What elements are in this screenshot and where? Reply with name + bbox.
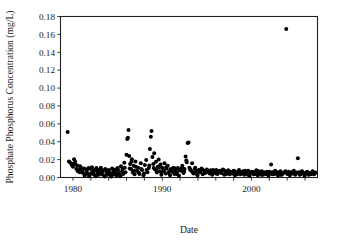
y-tick-label: 0.14 [39,48,55,58]
data-point [211,168,215,172]
data-point [191,170,195,174]
data-point [233,169,237,173]
data-point [166,171,170,175]
data-point [296,156,300,160]
data-point [164,165,168,169]
data-point [66,130,70,134]
data-point [182,170,186,174]
data-point [94,174,98,178]
data-point [123,166,127,170]
data-point [144,158,148,162]
data-point [142,171,146,175]
data-point [298,173,302,177]
data-point [129,160,133,164]
data-point [243,169,247,173]
data-point [269,163,273,167]
y-tick-label: 0.08 [39,101,55,111]
data-point [200,167,204,171]
data-point [107,170,111,174]
y-tick-label: 0.00 [39,173,55,183]
data-point [127,154,131,158]
scatter-chart-figure: 0.000.020.040.060.080.100.120.140.160.18… [0,0,341,247]
y-axis-tick-labels: 0.000.020.040.060.080.100.120.140.160.18 [39,12,55,183]
data-point [145,168,149,172]
data-point [154,168,158,172]
data-point [157,165,161,169]
data-point [150,155,154,159]
y-tick-label: 0.18 [39,12,55,22]
data-point [80,170,84,174]
data-point [83,174,87,178]
data-point [116,168,120,172]
data-point [123,170,127,174]
data-point [100,170,104,174]
data-point [184,159,188,163]
x-tick-label: 2000 [242,184,261,194]
data-point [78,164,82,168]
data-point [149,135,153,139]
y-tick-label: 0.12 [39,65,55,75]
y-tick-label: 0.04 [39,137,55,147]
data-point [137,171,141,175]
chart-canvas: 0.000.020.040.060.080.100.120.140.160.18… [0,0,341,247]
data-point [284,27,288,31]
data-point [74,163,78,167]
data-point [92,169,96,173]
data-point [184,154,188,158]
data-point [143,163,147,167]
data-point [139,161,143,165]
y-tick-label: 0.02 [39,155,55,165]
data-point [148,147,152,151]
data-point [128,167,132,171]
data-point [152,151,156,155]
x-axis-tick-labels: 198019902000 [64,184,261,194]
data-point [180,166,184,170]
y-tick-label: 0.16 [39,30,55,40]
data-point [109,175,113,179]
plot-frame [61,17,318,178]
data-point [85,169,89,173]
data-point [175,172,179,176]
data-point [76,169,80,173]
data-point [139,167,143,171]
y-tick-label: 0.06 [39,119,55,129]
data-point [162,161,166,165]
x-tick-label: 1990 [153,184,172,194]
data-point [126,136,130,140]
x-axis-title: Date [180,224,198,235]
data-point [313,171,317,175]
data-point [157,158,161,162]
data-point [133,172,137,176]
data-point [222,168,226,172]
data-point [257,169,261,173]
data-point [133,159,137,163]
data-point [173,167,177,171]
data-point [193,166,197,170]
data-point [190,161,194,165]
data-point [162,169,166,173]
data-point [134,165,138,169]
data-point [122,161,126,165]
y-axis-title: Phosphate Phosphorus Concentration (mg/L… [4,11,16,184]
data-point [127,128,131,132]
data-point [187,141,191,145]
data-point [147,163,151,167]
data-point [118,174,122,178]
x-tick-label: 1980 [64,184,83,194]
y-tick-label: 0.10 [39,83,55,93]
scatter-points-layer [66,27,318,179]
data-point [171,170,175,174]
data-point [283,169,287,173]
data-point [103,175,107,179]
data-point [150,129,154,133]
data-point [132,169,136,173]
